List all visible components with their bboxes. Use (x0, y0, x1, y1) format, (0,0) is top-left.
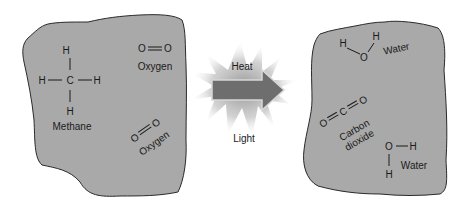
light-label: Light (233, 133, 255, 144)
reactants-region (23, 15, 187, 197)
water2-o: O (385, 141, 393, 152)
combustion-diagram: H C H H H Methane O O Oxygen O O Oxygen … (0, 0, 461, 213)
water2-h-right: H (409, 141, 416, 152)
water1-h-left: H (339, 38, 346, 49)
methane-h-bottom: H (66, 106, 73, 117)
water2-h-bottom: H (385, 169, 392, 180)
heat-label: Heat (231, 61, 252, 72)
oxygen1-o-left: O (138, 43, 146, 54)
methane-h-left: H (38, 75, 45, 86)
water2-label: Water (401, 160, 428, 171)
methane-c: C (66, 75, 73, 86)
oxygen1-o-right: O (164, 43, 172, 54)
water1-o: O (360, 52, 368, 63)
water1-h-right: H (372, 31, 379, 42)
methane-h-right: H (93, 75, 100, 86)
methane-h-top: H (62, 45, 69, 56)
methane-label: Methane (53, 121, 92, 132)
oxygen1-label: Oxygen (138, 61, 172, 72)
